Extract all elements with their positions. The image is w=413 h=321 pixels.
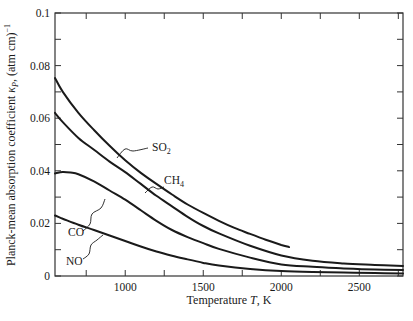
data-curves [55,78,403,273]
x-axis-title: Temperature T, K [187,293,272,307]
y-tick-label: 0.1 [36,7,51,19]
curve-co [55,172,403,270]
x-tick-label: 2500 [348,281,371,293]
x-tick-label: 1500 [192,281,215,293]
y-tick-label: 0.08 [30,60,50,72]
y-axis-title: Planck-mean absorption coefficient κP, (… [3,24,20,266]
y-tick-label: 0 [44,270,50,282]
label-no: NO [66,255,83,267]
line-chart: 100015002000250000.020.040.060.080.1 SO2… [0,0,413,321]
y-tick-label: 0.06 [30,112,50,124]
curve-so2 [55,78,289,247]
leader-co [83,199,105,231]
label-so2: SO2 [152,141,171,156]
label-leader-lines [83,148,164,259]
chart-container: 100015002000250000.020.040.060.080.1 SO2… [0,0,413,321]
x-tick-label: 1000 [114,281,137,293]
y-tick-label: 0.04 [30,165,50,177]
label-co: CO [68,226,84,238]
y-tick-label: 0.02 [30,217,50,229]
label-ch4: CH4 [164,174,184,189]
leader-ch4 [145,187,164,193]
x-tick-label: 2000 [270,281,293,293]
leader-no [83,235,103,259]
axis-ticks: 100015002000250000.020.040.060.080.1 [30,7,403,293]
